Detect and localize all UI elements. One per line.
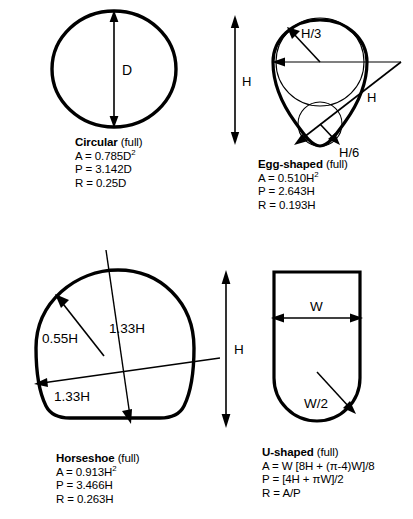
egg-formula-perimeter: P = 2.643H — [258, 185, 348, 199]
egg-height-arrow — [231, 15, 239, 145]
horseshoe-caption: Horseshoe (full) A = 0.913H2 P = 3.466H … — [56, 452, 139, 506]
circular-title-text: Circular — [75, 136, 118, 148]
ushaped-caption: U-shaped (full) A = W [8H + (π-4)W]/8 P … — [262, 446, 375, 500]
horseshoe-radius-arrow — [55, 294, 104, 356]
horseshoe-dimension-label-1-33H-horizontal: 1.33H — [54, 389, 90, 404]
egg-area-expression: A = 0.510H — [258, 172, 314, 184]
horseshoe-dimension-label-1-33H-vertical: 1.33H — [109, 321, 145, 336]
horseshoe-formula-area: A = 0.913H2 — [56, 466, 139, 480]
egg-formula-area: A = 0.510H2 — [258, 172, 348, 186]
circular-formula-radius: R = 0.25D — [75, 177, 143, 191]
ushaped-formula-radius: R = A/P — [262, 487, 375, 501]
egg-dimension-label-H: H — [242, 74, 251, 89]
egg-dimension-label-H-third: H/3 — [301, 26, 321, 41]
horseshoe-title: Horseshoe (full) — [56, 452, 139, 466]
circular-formula-perimeter: P = 3.142D — [75, 163, 143, 177]
horseshoe-formula-perimeter: P = 3.466H — [56, 479, 139, 493]
egg-width-arrow — [272, 58, 401, 67]
horseshoe-formula-radius: R = 0.263H — [56, 493, 139, 507]
horseshoe-figure: 0.55H 1.33H 1.33H H — [8, 248, 258, 448]
circular-area-expression: A = 0.785D — [75, 150, 131, 162]
horseshoe-vertical-radius-arrow — [106, 250, 132, 424]
egg-figure: H H/3 H H/6 — [215, 4, 413, 162]
circular-figure: D — [30, 6, 200, 136]
ushaped-title-suffix: (full) — [314, 446, 339, 458]
horseshoe-area-superscript: 2 — [112, 464, 116, 473]
circular-caption: Circular (full) A = 0.785D2 P = 3.142D R… — [75, 136, 143, 190]
circular-diameter-arrow — [110, 10, 119, 128]
ushaped-figure: W W/2 — [252, 262, 402, 440]
circular-dimension-label-D: D — [122, 62, 132, 78]
egg-diagonal-height-arrow — [294, 62, 401, 145]
ushaped-formula-perimeter: P = [4H + πW]/2 — [262, 473, 375, 487]
horseshoe-dimension-label-0-55H: 0.55H — [42, 331, 78, 346]
horseshoe-dimension-label-H: H — [234, 342, 244, 357]
ushaped-dimension-label-W-half: W/2 — [304, 396, 328, 411]
horseshoe-area-expression: A = 0.913H — [56, 466, 112, 478]
egg-caption: Egg-shaped (full) A = 0.510H2 P = 2.643H… — [258, 158, 348, 212]
ushaped-title: U-shaped (full) — [262, 446, 375, 460]
ushaped-formula-area: A = W [8H + (π-4)W]/8 — [262, 460, 375, 474]
ushaped-dimension-label-W: W — [310, 299, 323, 314]
circular-area-superscript: 2 — [131, 148, 135, 157]
horseshoe-height-arrow — [222, 270, 231, 428]
horseshoe-title-text: Horseshoe — [56, 452, 115, 464]
egg-formula-radius: R = 0.193H — [258, 199, 348, 213]
egg-title-suffix: (full) — [323, 158, 348, 170]
egg-dimension-label-H-diagonal: H — [367, 90, 376, 105]
ushaped-title-text: U-shaped — [262, 446, 314, 458]
egg-title-text: Egg-shaped — [258, 158, 323, 170]
egg-area-superscript: 2 — [314, 170, 318, 179]
circular-formula-area: A = 0.785D2 — [75, 150, 143, 164]
egg-title: Egg-shaped (full) — [258, 158, 348, 172]
shapes-formula-sheet: D Circular (full) A = 0.785D2 P = 3.142D… — [0, 0, 413, 519]
circular-title-suffix: (full) — [118, 136, 143, 148]
ushaped-width-arrow — [271, 314, 363, 323]
horseshoe-title-suffix: (full) — [115, 452, 140, 464]
